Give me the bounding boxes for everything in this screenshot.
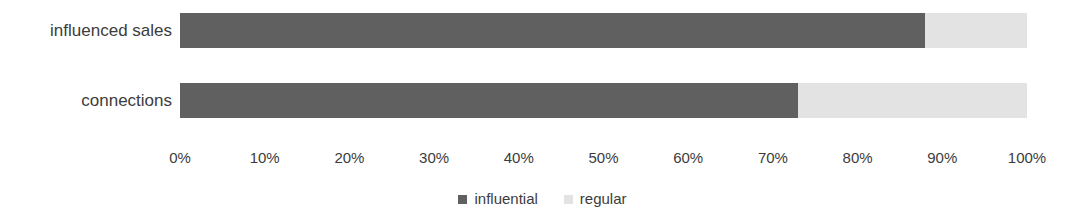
category-label-influenced-sales: influenced sales: [0, 22, 172, 39]
legend-swatch-icon: [564, 195, 573, 204]
bar-row-influenced-sales: [180, 13, 1027, 48]
legend-item[interactable]: influential: [458, 190, 537, 208]
bar-segment-influential[interactable]: [180, 83, 798, 118]
chart-legend: influentialregular: [0, 190, 1085, 208]
bar-segment-regular[interactable]: [925, 13, 1027, 48]
x-axis-tick-label: 90%: [927, 149, 957, 167]
x-axis-tick-label: 80%: [843, 149, 873, 167]
legend-label: regular: [580, 190, 627, 208]
x-axis-tick-label: 30%: [419, 149, 449, 167]
x-axis-tick-label: 10%: [250, 149, 280, 167]
legend-label: influential: [474, 190, 537, 208]
x-axis-tick-label: 100%: [1008, 149, 1046, 167]
legend-swatch-icon: [458, 195, 467, 204]
x-axis: 0%10%20%30%40%50%60%70%80%90%100%: [180, 149, 1027, 169]
stacked-bar-chart: influenced sales connections 0%10%20%30%…: [0, 0, 1085, 220]
x-axis-tick-label: 20%: [334, 149, 364, 167]
x-axis-tick-label: 0%: [169, 149, 191, 167]
legend-item[interactable]: regular: [564, 190, 627, 208]
category-label-connections: connections: [0, 92, 172, 109]
bar-segment-influential[interactable]: [180, 13, 925, 48]
bar-segment-regular[interactable]: [798, 83, 1027, 118]
x-axis-tick-label: 40%: [504, 149, 534, 167]
bar-row-connections: [180, 83, 1027, 118]
x-axis-tick-label: 60%: [673, 149, 703, 167]
x-axis-tick-label: 70%: [758, 149, 788, 167]
x-axis-tick-label: 50%: [588, 149, 618, 167]
